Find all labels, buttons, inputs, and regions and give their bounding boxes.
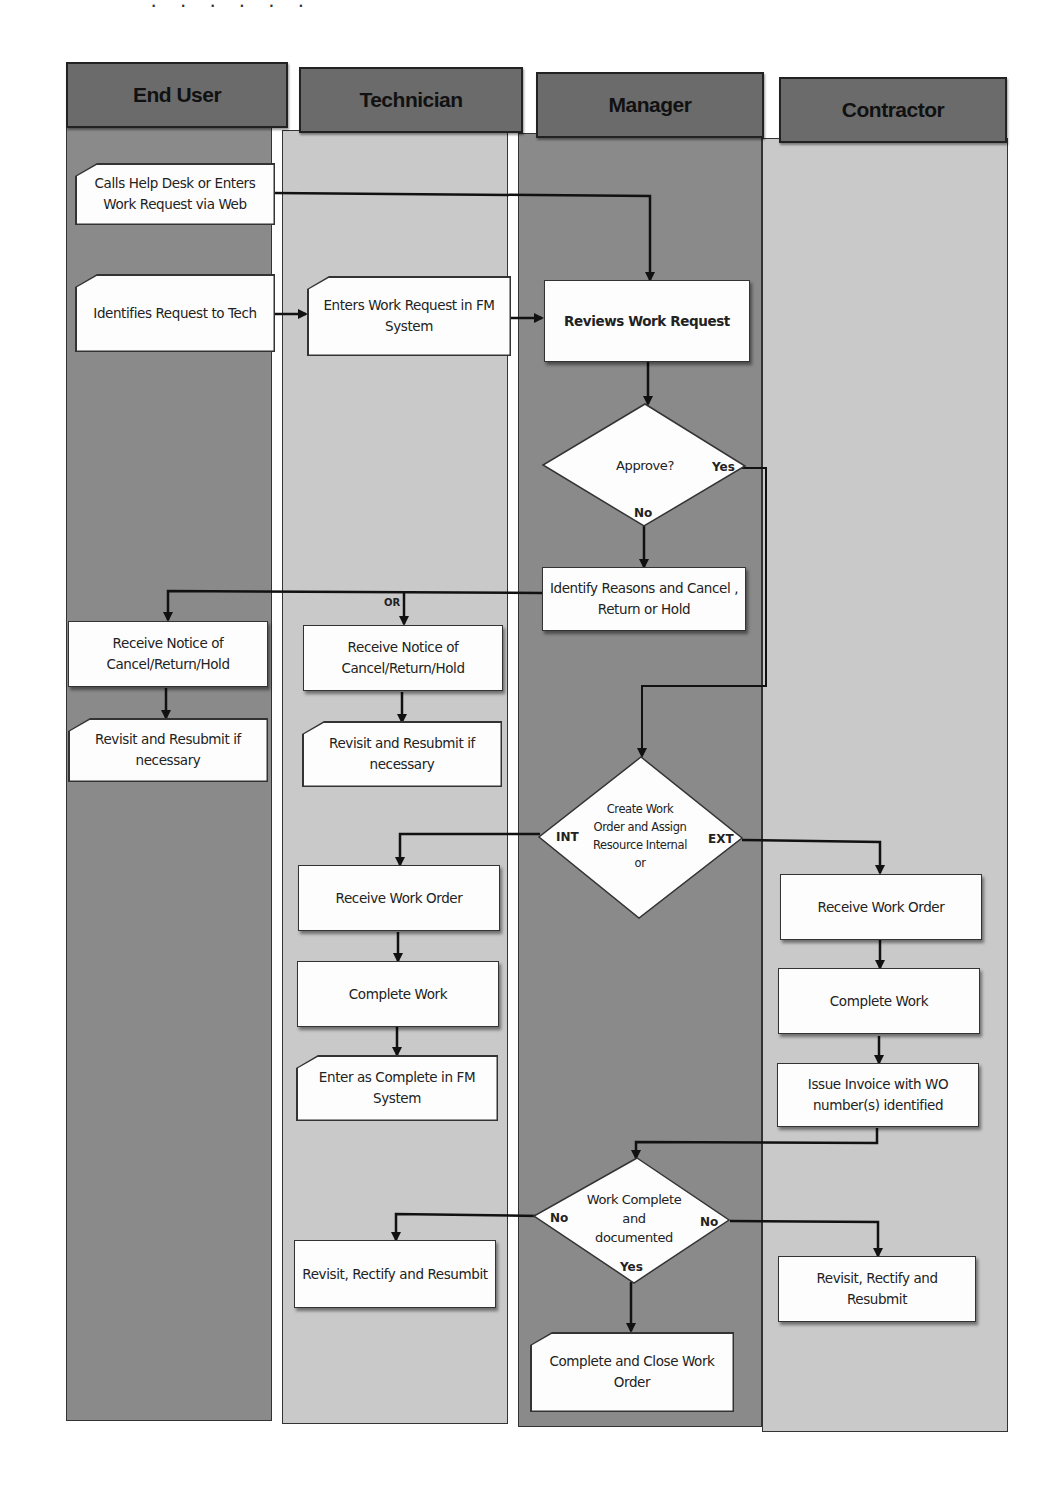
issue-invoice-step: Issue Invoice with WO number(s) identifi… [777,1063,979,1127]
approve-decision-text: Approve? [600,456,690,475]
tech-receive-notice-step: Receive Notice of Cancel/Return/Hold [303,625,503,691]
work-complete-no-left-label: No [550,1211,568,1225]
tech-receive-work-order-step: Receive Work Order [298,865,500,931]
contractor-complete-work-step: Complete Work [778,968,980,1034]
approve-no-label: No [634,506,652,520]
tech-enter-complete-step: Enter as Complete in FM System [296,1055,498,1121]
tech-complete-work-step: Complete Work [297,961,499,1027]
contractor-revisit-rectify-step: Revisit, Rectify and Resubmit [778,1256,976,1322]
work-complete-no-right-label: No [700,1215,718,1229]
enduser-receive-notice-step: Receive Notice of Cancel/Return/Hold [68,621,268,687]
contractor-receive-work-order-step: Receive Work Order [780,874,982,940]
identifies-request-step: Identifies Request to Tech [75,274,275,352]
identify-reasons-step: Identify Reasons and Cancel , Return or … [542,567,746,631]
work-complete-yes-label: Yes [620,1260,643,1274]
int-label: INT [556,830,579,844]
approve-yes-label: Yes [712,460,735,474]
enduser-revisit-step: Revisit and Resubmit if necessary [68,718,268,782]
work-complete-decision-text: Work Complete and documented [583,1190,685,1247]
calls-help-desk-step: Calls Help Desk or Enters Work Request v… [75,163,275,225]
complete-close-work-order-step: Complete and Close Work Order [530,1332,734,1412]
tech-revisit-step: Revisit and Resubmit if necessary [302,721,502,787]
enters-work-request-step: Enters Work Request in FM System [307,276,511,356]
or-label: OR [384,597,400,608]
ext-label: EXT [708,832,734,846]
tech-revisit-rectify-step: Revisit, Rectify and Resumbit [294,1240,496,1308]
create-work-order-text: Create Work Order and Assign Resource In… [592,800,688,872]
reviews-work-request-step: Reviews Work Request [544,280,750,362]
